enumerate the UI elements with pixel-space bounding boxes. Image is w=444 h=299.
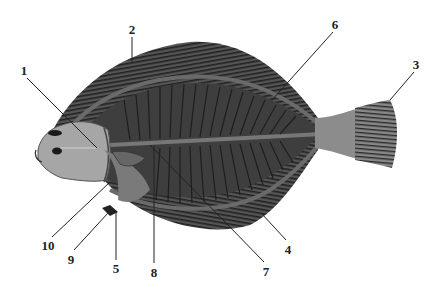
label-2: 2: [129, 23, 136, 36]
label-9: 9: [68, 253, 75, 266]
flatfish-illustration: [0, 0, 444, 299]
leader-10: [52, 182, 110, 237]
label-6: 6: [332, 18, 339, 31]
head: [38, 122, 110, 182]
label-8: 8: [151, 266, 158, 279]
leader-9: [74, 213, 108, 250]
label-5: 5: [113, 262, 120, 275]
label-1: 1: [21, 64, 28, 77]
caudal-fin: [355, 100, 397, 168]
label-4: 4: [285, 243, 292, 256]
leader-6: [272, 32, 333, 100]
label-3: 3: [413, 58, 420, 71]
leader-4: [262, 214, 286, 240]
leader-3: [390, 72, 414, 100]
label-10: 10: [42, 239, 55, 252]
eye: [52, 148, 62, 155]
upper-eye: [48, 130, 62, 136]
label-7: 7: [263, 265, 270, 278]
caudal-peduncle: [315, 108, 362, 160]
fish-diagram: 1 2 3 4 5 6 7 8 9 10: [0, 0, 444, 299]
